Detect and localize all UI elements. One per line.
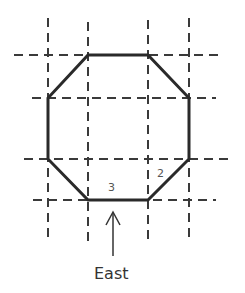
horizontal-grid-lines	[14, 55, 230, 200]
edge-label-2: 2	[157, 167, 164, 180]
edge-label-3: 3	[108, 181, 115, 194]
east-label: East	[94, 264, 129, 283]
octagon-diagram: 3 2 East	[0, 0, 245, 293]
octagon-shape	[48, 55, 189, 200]
vertical-grid-lines	[48, 18, 189, 244]
up-arrow-icon	[106, 212, 120, 256]
